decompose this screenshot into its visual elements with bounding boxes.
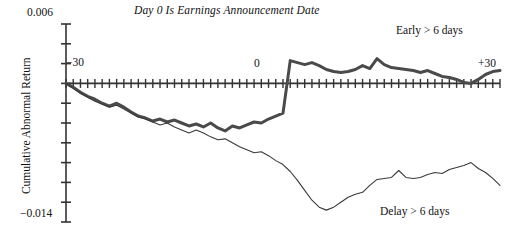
y-axis-min-label: −0.014 [20,208,52,220]
axes-group [61,24,500,222]
chart-title: Day 0 Is Earnings Announcement Date [134,5,320,17]
legend-label-early: Early > 6 days [396,25,463,37]
y-axis-max-label: 0.006 [27,7,53,19]
y-axis-title: Cumulative Abnormal Return [21,46,33,206]
x-axis-right-label: +30 [478,58,496,70]
x-axis-ticks [66,79,500,88]
x-axis-left-label: −30 [66,57,84,69]
chart-figure: Day 0 Is Earnings Announcement Date 0.00… [0,0,524,238]
series-line-early-6-days [66,59,500,131]
legend-label-delay: Delay > 6 days [380,206,449,218]
x-axis-zero-label: 0 [254,58,260,70]
